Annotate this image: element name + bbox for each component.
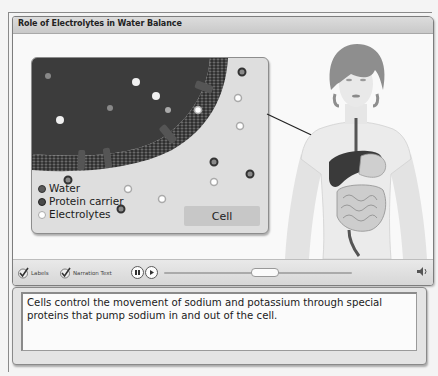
cell-button[interactable]: Cell	[184, 206, 260, 226]
narration-text: Cells control the movement of sodium and…	[21, 292, 417, 351]
title-bar: Role of Electrolytes in Water Balance	[13, 17, 433, 34]
cell-panel: Water Protein carrier Electrolytes Cell	[31, 57, 269, 234]
labels-toggle[interactable]: Labels	[17, 267, 49, 279]
particle-legend: Water Protein carrier Electrolytes	[38, 182, 124, 221]
play-button[interactable]	[145, 266, 158, 279]
water-dot-icon	[38, 185, 46, 193]
electrolytes-dot-icon	[38, 211, 46, 219]
outer-frame-top	[8, 12, 432, 13]
labels-toggle-label: Labels	[31, 270, 49, 276]
human-body-illustration	[279, 34, 433, 259]
legend-item-water: Water	[38, 182, 124, 195]
protein-carrier-dot-icon	[38, 198, 46, 206]
pause-button[interactable]	[131, 266, 144, 279]
animation-stage: Water Protein carrier Electrolytes Cell	[13, 34, 433, 259]
checkmark-icon	[17, 267, 29, 279]
outer-frame-left	[8, 12, 9, 372]
playback-controls: Labels Narration Text	[13, 259, 433, 286]
legend-label: Electrolytes	[49, 208, 111, 221]
legend-item-protein-carrier: Protein carrier	[38, 195, 124, 208]
narration-text-toggle[interactable]: Narration Text	[59, 267, 112, 279]
play-icon	[148, 269, 155, 276]
window-title: Role of Electrolytes in Water Balance	[18, 19, 182, 28]
narration-panel: Cells control the movement of sodium and…	[12, 287, 427, 365]
narration-text-toggle-label: Narration Text	[73, 270, 112, 276]
progress-slider-thumb[interactable]	[251, 268, 279, 277]
speaker-icon[interactable]	[416, 266, 428, 277]
pause-icon	[134, 269, 141, 276]
legend-label: Protein carrier	[49, 195, 124, 208]
animation-window: Role of Electrolytes in Water Balance	[12, 16, 434, 286]
legend-label: Water	[49, 182, 80, 195]
checkmark-icon	[59, 267, 71, 279]
legend-item-electrolytes: Electrolytes	[38, 208, 124, 221]
